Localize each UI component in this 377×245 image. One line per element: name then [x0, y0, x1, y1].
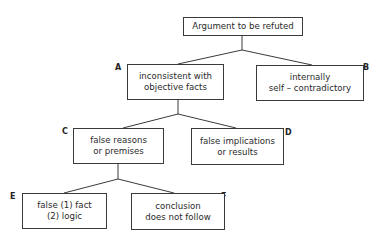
- node-a-line-1: inconsistent with: [139, 71, 212, 82]
- node-e-line-1: false (1) fact: [37, 200, 91, 211]
- label-e: E: [10, 192, 15, 201]
- node-c-line-1: false reasons: [90, 135, 147, 146]
- node-root-argument: Argument to be refuted: [183, 17, 303, 36]
- node-e-line-2: (2) logic: [47, 211, 82, 222]
- node-b-self-contradictory: internally self – contradictory: [256, 65, 364, 101]
- node-a-inconsistent: inconsistent with objective facts: [127, 64, 224, 100]
- node-b-line-2: self – contradictory: [269, 83, 351, 94]
- label-a: A: [115, 63, 121, 72]
- node-f-line-2: does not follow: [145, 212, 210, 223]
- node-e-false-fact-logic: false (1) fact (2) logic: [22, 193, 107, 229]
- label-c: C: [62, 127, 68, 136]
- node-b-line-1: internally: [290, 72, 330, 83]
- node-f-conclusion: conclusion does not follow: [131, 193, 225, 230]
- node-a-line-2: objective facts: [144, 82, 207, 93]
- node-c-line-2: or premises: [93, 146, 144, 157]
- node-d-line-1: false implications: [200, 136, 275, 147]
- node-d-false-implications: false implications or results: [191, 128, 284, 165]
- node-f-line-1: conclusion: [155, 201, 201, 212]
- node-d-line-2: or results: [217, 147, 257, 158]
- node-root-text: Argument to be refuted: [192, 21, 293, 32]
- node-c-false-reasons: false reasons or premises: [73, 128, 164, 164]
- label-d: D: [285, 128, 292, 137]
